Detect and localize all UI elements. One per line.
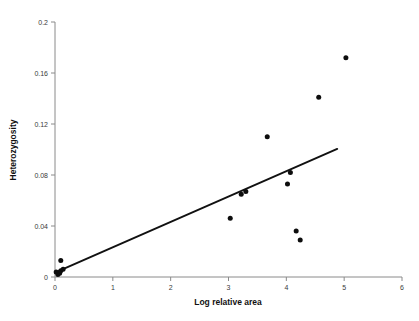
x-tick-label: 3 — [227, 284, 231, 291]
y-tick-label: 0.2 — [38, 19, 48, 26]
y-tick-label: 0.08 — [34, 172, 48, 179]
data-point — [58, 258, 63, 263]
x-axis-tick-labels: 0123456 — [53, 284, 404, 291]
x-axis: 0123456 — [53, 277, 404, 291]
x-tick-label: 5 — [342, 284, 346, 291]
data-point — [228, 216, 233, 221]
data-point — [239, 192, 244, 197]
data-point — [298, 238, 303, 243]
x-tick-label: 6 — [400, 284, 404, 291]
regression-line — [55, 149, 337, 273]
y-tick-label: 0.04 — [34, 223, 48, 230]
x-tick-label: 2 — [169, 284, 173, 291]
regression-line-group — [55, 149, 337, 273]
y-tick-label: 0 — [44, 274, 48, 281]
data-point — [265, 134, 270, 139]
x-axis-ticks — [55, 277, 402, 281]
chart-page: 00.040.080.120.160.2 0123456 Log relativ… — [0, 0, 419, 321]
data-point — [294, 229, 299, 234]
y-axis-title: Heterozygosity — [8, 119, 18, 180]
y-axis-tick-labels: 00.040.080.120.160.2 — [34, 19, 48, 281]
x-tick-label: 0 — [53, 284, 57, 291]
y-axis-ticks — [51, 22, 55, 277]
y-axis: 00.040.080.120.160.2 — [34, 19, 55, 281]
x-axis-title: Log relative area — [194, 297, 262, 307]
data-point — [61, 267, 66, 272]
data-points-group — [54, 55, 349, 277]
data-point — [316, 95, 321, 100]
y-tick-label: 0.16 — [34, 70, 48, 77]
x-tick-label: 4 — [284, 284, 288, 291]
x-tick-label: 1 — [111, 284, 115, 291]
data-point — [243, 189, 248, 194]
data-point — [343, 55, 348, 60]
data-point — [288, 170, 293, 175]
scatter-plot: 00.040.080.120.160.2 0123456 Log relativ… — [0, 0, 419, 321]
y-tick-label: 0.12 — [34, 121, 48, 128]
data-point — [285, 181, 290, 186]
